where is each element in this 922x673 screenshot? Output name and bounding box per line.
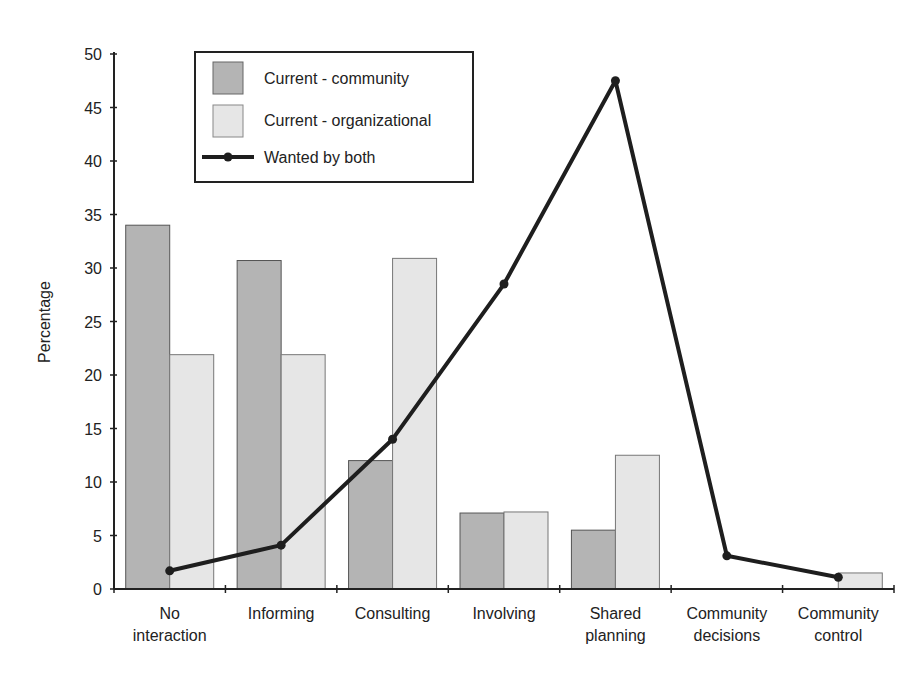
x-category-label: decisions [694, 627, 761, 644]
bar-community [460, 513, 504, 589]
x-category-label: Informing [248, 605, 315, 622]
x-axis-labels: NointeractionInformingConsultingInvolvin… [133, 605, 879, 644]
wanted-marker [611, 76, 620, 85]
bar-community [571, 530, 615, 589]
y-tick-label: 45 [84, 100, 102, 117]
x-category-label: planning [585, 627, 646, 644]
bar-organizational [838, 573, 882, 589]
wanted-marker [388, 435, 397, 444]
x-category-label: interaction [133, 627, 207, 644]
bar-organizational [281, 355, 325, 589]
legend-swatch-organizational [213, 105, 243, 137]
y-tick-label: 20 [84, 367, 102, 384]
wanted-marker [834, 573, 843, 582]
legend-label-wanted: Wanted by both [264, 149, 375, 166]
legend-label-community: Current - community [264, 70, 409, 87]
bar-community [349, 461, 393, 589]
wanted-marker [500, 280, 509, 289]
bar-community [126, 225, 170, 589]
wanted-marker [165, 566, 174, 575]
y-tick-label: 35 [84, 207, 102, 224]
x-category-label: Shared [590, 605, 642, 622]
y-tick-label: 40 [84, 153, 102, 170]
legend-label-organizational: Current - organizational [264, 112, 431, 129]
legend-marker-icon [224, 153, 233, 162]
y-tick-label: 15 [84, 421, 102, 438]
legend-swatch-community [213, 62, 243, 94]
bar-organizational [393, 258, 437, 589]
legend: Current - community Current - organizati… [195, 52, 473, 182]
bar-organizational [615, 455, 659, 589]
y-tick-label: 5 [93, 528, 102, 545]
x-category-label: Community [798, 605, 879, 622]
bar-organizational [170, 355, 214, 589]
x-category-label: Consulting [355, 605, 431, 622]
y-tick-label: 10 [84, 474, 102, 491]
x-category-label: Involving [472, 605, 535, 622]
y-tick-label: 50 [84, 46, 102, 63]
y-tick-label: 0 [93, 581, 102, 598]
y-tick-label: 25 [84, 314, 102, 331]
bar-organizational [504, 512, 548, 589]
bar-community [237, 261, 281, 589]
y-axis-label: Percentage [36, 281, 53, 363]
x-category-label: Community [686, 605, 767, 622]
y-tick-label: 30 [84, 260, 102, 277]
wanted-marker [722, 551, 731, 560]
x-category-label: control [814, 627, 862, 644]
x-category-label: No [159, 605, 180, 622]
chart: 05101520253035404550 NointeractionInform… [0, 0, 922, 673]
wanted-marker [277, 541, 286, 550]
